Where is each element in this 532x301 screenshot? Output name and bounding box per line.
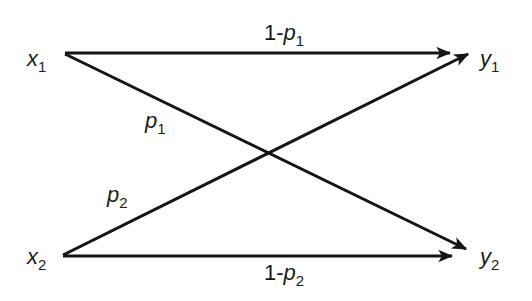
edge-label-1-p2: 1-p2 <box>264 260 304 289</box>
edge-label-1-p1: 1-p1 <box>264 20 304 49</box>
binary-channel-diagram: x1 x2 y1 y2 1-p1 p1 p2 1-p2 <box>0 0 532 301</box>
node-x1: x1 <box>26 46 46 75</box>
node-y1: y1 <box>478 46 499 75</box>
edge-label-p1: p1 <box>144 108 166 137</box>
edge-label-p2: p2 <box>106 182 128 211</box>
node-x2: x2 <box>26 244 46 273</box>
node-y2: y2 <box>478 244 499 273</box>
